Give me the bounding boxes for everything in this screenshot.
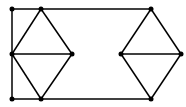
vertex-v3 xyxy=(10,52,15,57)
graph-edges xyxy=(12,9,181,99)
vertex-v8 xyxy=(119,52,124,57)
edge-v7-v8 xyxy=(121,9,151,54)
edge-v9-v10 xyxy=(151,54,181,99)
edge-v7-v9 xyxy=(151,9,181,54)
vertex-v9 xyxy=(179,52,184,57)
vertex-v4 xyxy=(70,52,75,57)
graph-diagram xyxy=(0,0,186,107)
edge-v2-v4 xyxy=(41,9,72,54)
vertex-v5 xyxy=(10,97,15,102)
edge-v8-v10 xyxy=(121,54,151,99)
vertex-v2 xyxy=(39,7,44,12)
edge-v2-v3 xyxy=(12,9,41,54)
vertex-v6 xyxy=(39,97,44,102)
vertex-v1 xyxy=(10,7,15,12)
vertex-v10 xyxy=(149,97,154,102)
edge-v3-v6 xyxy=(12,54,41,99)
edge-v4-v6 xyxy=(41,54,72,99)
vertex-v7 xyxy=(149,7,154,12)
